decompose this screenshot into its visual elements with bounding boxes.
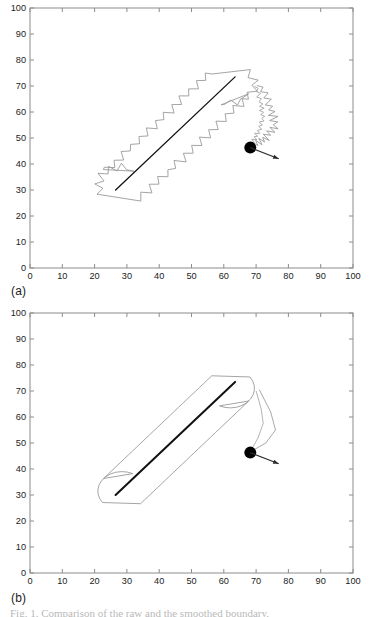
y-tick-label: 40 [16, 464, 26, 474]
y-tick-label: 40 [16, 159, 26, 169]
y-tick-label: 20 [16, 211, 26, 221]
x-tick-label: 20 [89, 271, 99, 281]
panel-label-b: (b) [11, 591, 26, 605]
y-tick-label: 100 [11, 308, 26, 318]
x-tick-label: 50 [186, 271, 196, 281]
x-tick-label: 90 [316, 271, 326, 281]
x-tick-label: 60 [219, 271, 229, 281]
plot-frame [30, 8, 353, 268]
x-tick-label: 10 [57, 576, 67, 586]
chart-panel-a: 0102030405060708090100010203040506070809… [0, 0, 375, 305]
x-tick-label: 80 [283, 271, 293, 281]
x-tick-label: 90 [316, 576, 326, 586]
y-tick-label: 30 [16, 490, 26, 500]
x-tick-label: 100 [345, 271, 360, 281]
plot-frame [30, 313, 353, 573]
x-tick-label: 0 [27, 576, 32, 586]
x-tick-label: 40 [154, 271, 164, 281]
y-tick-label: 0 [21, 263, 26, 273]
x-tick-label: 40 [154, 576, 164, 586]
x-tick-label: 10 [57, 271, 67, 281]
y-tick-label: 20 [16, 516, 26, 526]
x-tick-label: 100 [345, 576, 360, 586]
y-tick-label: 70 [16, 386, 26, 396]
chart-panel-b: 0102030405060708090100010203040506070809… [0, 305, 375, 617]
x-tick-label: 30 [122, 271, 132, 281]
plot-a-svg: 0102030405060708090100010203040506070809… [0, 0, 375, 305]
y-tick-label: 50 [16, 133, 26, 143]
y-tick-label: 10 [16, 542, 26, 552]
y-tick-label: 60 [16, 107, 26, 117]
y-tick-label: 10 [16, 237, 26, 247]
x-tick-label: 20 [89, 576, 99, 586]
y-tick-label: 50 [16, 438, 26, 448]
x-tick-label: 50 [186, 576, 196, 586]
y-tick-label: 60 [16, 412, 26, 422]
x-tick-label: 70 [251, 271, 261, 281]
y-tick-label: 0 [21, 568, 26, 578]
y-tick-label: 70 [16, 81, 26, 91]
x-tick-label: 80 [283, 576, 293, 586]
y-tick-label: 30 [16, 185, 26, 195]
x-tick-label: 70 [251, 576, 261, 586]
figure-container: 0102030405060708090100010203040506070809… [0, 0, 375, 617]
x-tick-label: 30 [122, 576, 132, 586]
x-tick-label: 60 [219, 576, 229, 586]
y-tick-label: 80 [16, 360, 26, 370]
y-tick-label: 90 [16, 334, 26, 344]
panel-label-a: (a) [11, 284, 26, 298]
y-tick-label: 100 [11, 3, 26, 13]
plot-b-svg: 0102030405060708090100010203040506070809… [0, 305, 375, 617]
x-tick-label: 0 [27, 271, 32, 281]
y-tick-label: 90 [16, 29, 26, 39]
y-tick-label: 80 [16, 55, 26, 65]
figure-caption-partial: Fig. 1. Comparison of the raw and the sm… [10, 608, 365, 617]
